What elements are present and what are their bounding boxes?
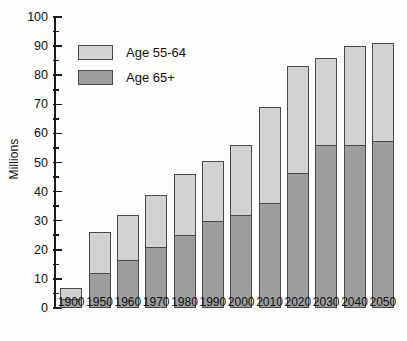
- legend-item-age-55-64: Age 55-64: [78, 43, 186, 62]
- legend-label-age-65-plus: Age 65+: [126, 71, 175, 84]
- bar-2020: [287, 17, 309, 308]
- bar-2050: [372, 17, 394, 308]
- legend-item-age-65-plus: Age 65+: [78, 68, 186, 87]
- bar-segment-age-65-plus: [372, 141, 394, 308]
- chart-figure: Millions 0102030405060708090100 19001950…: [0, 0, 407, 341]
- legend-swatch-age-55-64: [78, 45, 113, 60]
- bar-1990: [202, 17, 224, 308]
- y-tick-label: 90: [34, 40, 48, 53]
- bar-segment-age-55-64: [174, 174, 196, 236]
- chart-legend: Age 55-64 Age 65+: [78, 43, 186, 93]
- bar-segment-age-55-64: [202, 161, 224, 222]
- bar-segment-age-65-plus: [287, 173, 309, 308]
- x-tick-label-2010: 2010: [256, 295, 283, 309]
- bar-segment-age-55-64: [344, 46, 366, 146]
- bar-segment-age-65-plus: [259, 203, 281, 308]
- x-tick-label-1990: 1990: [199, 295, 226, 309]
- y-tick-label: 30: [34, 214, 48, 227]
- y-tick-label: 80: [34, 69, 48, 82]
- x-tick-label-2050: 2050: [369, 295, 396, 309]
- x-tick-label-2030: 2030: [313, 295, 340, 309]
- y-tick-label: 50: [34, 156, 48, 169]
- y-tick-label: 40: [34, 185, 48, 198]
- bar-2010: [259, 17, 281, 308]
- x-tick-label-1900: 1900: [58, 295, 85, 309]
- bar-segment-age-55-64: [287, 66, 309, 173]
- bar-segment-age-55-64: [372, 43, 394, 141]
- x-tick-label-2040: 2040: [341, 295, 368, 309]
- bar-segment-age-55-64: [259, 107, 281, 204]
- bar-segment-age-65-plus: [315, 145, 337, 308]
- bar-segment-age-55-64: [117, 215, 139, 261]
- bar-segment-age-55-64: [230, 145, 252, 216]
- x-tick-label-1950: 1950: [86, 295, 113, 309]
- bar-2030: [315, 17, 337, 308]
- bar-2040: [344, 17, 366, 308]
- bar-segment-age-55-64: [145, 195, 167, 248]
- y-tick-label: 20: [34, 244, 48, 257]
- y-axis-title: Millions: [7, 119, 21, 199]
- x-tick-label-2020: 2020: [284, 295, 311, 309]
- bar-segment-age-65-plus: [344, 145, 366, 308]
- bar-segment-age-55-64: [89, 232, 111, 274]
- x-tick-label-1980: 1980: [171, 295, 198, 309]
- legend-label-age-55-64: Age 55-64: [126, 46, 186, 59]
- y-tick-label: 70: [34, 98, 48, 111]
- bar-2000: [230, 17, 252, 308]
- y-tick-label: 0: [41, 302, 48, 315]
- y-tick-label: 10: [34, 273, 48, 286]
- x-tick-label-2000: 2000: [228, 295, 255, 309]
- x-tick-label-1960: 1960: [114, 295, 141, 309]
- y-tick-label: 60: [34, 127, 48, 140]
- x-tick-label-1970: 1970: [143, 295, 170, 309]
- y-tick-label: 100: [27, 11, 48, 24]
- legend-swatch-age-65-plus: [78, 70, 113, 85]
- bar-segment-age-55-64: [315, 58, 337, 146]
